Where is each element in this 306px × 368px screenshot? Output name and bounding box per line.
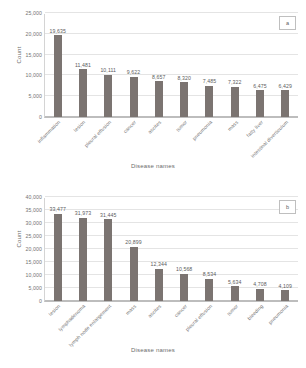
x-label-slot: tumor (222, 302, 247, 348)
bar[interactable] (79, 69, 87, 117)
bar-slot: 8,657 (146, 14, 171, 117)
x-axis-labels-b: lesionlymphadenomalymph node enlargement… (44, 302, 298, 348)
gridline: 40,000 (45, 196, 298, 197)
y-axis-tick-label: 0 (39, 114, 42, 120)
bar-slot: 31,445 (96, 198, 121, 301)
bar-slot: 20,899 (121, 198, 146, 301)
x-label-slot: bleeding (247, 302, 272, 348)
bar-slot: 5,634 (222, 198, 247, 301)
bar[interactable] (104, 75, 112, 117)
bar-value-label: 8,657 (152, 74, 165, 80)
x-axis-category-label: inflammation (36, 119, 61, 144)
bar[interactable] (155, 81, 163, 117)
bar-slot: 19,635 (45, 14, 70, 117)
bar[interactable] (256, 289, 264, 301)
x-label-slot: pneumonia (273, 302, 298, 348)
bar[interactable] (231, 286, 239, 301)
bar[interactable] (281, 90, 289, 117)
bar[interactable] (180, 82, 188, 117)
panel-label-b: b (279, 200, 296, 214)
bar-series-a: 19,63511,48110,1119,6228,6578,3207,4857,… (45, 14, 298, 117)
x-axis-category-label: fatty liver (245, 119, 264, 138)
bar[interactable] (205, 86, 213, 117)
bar-slot: 33,477 (45, 198, 70, 301)
x-axis-category-label: tumor (174, 119, 188, 133)
y-axis-tick-label: 25,000 (26, 233, 42, 239)
bar[interactable] (205, 279, 213, 301)
bar-slot: 7,322 (222, 14, 247, 117)
x-label-slot: pleural effusion (95, 118, 120, 164)
bar-value-label: 31,445 (100, 212, 116, 218)
x-axis-category-label: cancer (173, 303, 188, 318)
bar-value-label: 33,477 (49, 206, 65, 212)
bar[interactable] (231, 87, 239, 117)
bar[interactable] (130, 77, 138, 117)
y-axis-tick-label: 15,000 (26, 52, 42, 58)
x-axis-category-label: cancer (122, 119, 137, 134)
x-label-slot: mass (222, 118, 247, 164)
y-axis-tick-label: 20,000 (26, 31, 42, 37)
bar-value-label: 4,109 (279, 283, 292, 289)
bar-slot: 10,568 (171, 198, 196, 301)
bar-value-label: 5,634 (228, 279, 241, 285)
x-label-slot: inflammation (44, 118, 69, 164)
x-axis-category-label: ascites (147, 303, 163, 319)
y-axis-tick-label: 40,000 (26, 194, 42, 200)
bar-value-label: 7,485 (203, 78, 216, 84)
bar-value-label: 6,429 (279, 83, 292, 89)
bar[interactable] (104, 219, 112, 301)
bar-value-label: 31,973 (75, 210, 91, 216)
chart-panel-a: a Count 05,00010,00015,00020,00025,000 1… (0, 0, 306, 184)
x-label-slot: ascites (146, 118, 171, 164)
bar-value-label: 12,344 (151, 261, 167, 267)
bar[interactable] (54, 35, 62, 117)
bar-slot: 8,534 (197, 198, 222, 301)
bar-value-label: 6,475 (253, 83, 266, 89)
bar[interactable] (79, 218, 87, 301)
bar-value-label: 10,111 (100, 67, 116, 73)
bar[interactable] (180, 274, 188, 301)
x-axis-category-label: lesion (72, 119, 86, 133)
x-label-slot: cancer (120, 118, 145, 164)
bar[interactable] (130, 247, 138, 301)
bar[interactable] (256, 90, 264, 117)
y-axis-title-a: Count (16, 35, 22, 75)
x-axis-category-label: bleeding (246, 303, 264, 321)
bar-series-b: 33,47731,97331,44520,89912,34410,5688,53… (45, 198, 298, 301)
x-label-slot: tumor (171, 118, 196, 164)
bar[interactable] (155, 269, 163, 301)
y-axis-tick-label: 30,000 (26, 220, 42, 226)
plot-area-b: 05,00010,00015,00020,00025,00030,00035,0… (44, 198, 298, 302)
x-axis-category-label: ascites (147, 119, 163, 135)
x-label-slot: pleural effusion (196, 302, 221, 348)
bar-value-label: 11,481 (75, 62, 91, 68)
x-axis-title-b: Disease names (0, 347, 306, 353)
bar-slot: 9,622 (121, 14, 146, 117)
x-axis-category-label: mass (124, 303, 137, 316)
x-label-slot: ascites (146, 302, 171, 348)
y-axis-tick-label: 20,000 (26, 246, 42, 252)
bar-value-label: 7,322 (228, 79, 241, 85)
plot-area-a: 05,00010,00015,00020,00025,000 19,63511,… (44, 14, 298, 118)
x-axis-title-a: Disease names (0, 163, 306, 169)
bar-slot: 10,111 (96, 14, 121, 117)
x-axis-category-label: tumor (225, 303, 239, 317)
x-label-slot: lymph node enlargement (95, 302, 120, 348)
y-axis-tick-label: 35,000 (26, 207, 42, 213)
bar-value-label: 4,708 (253, 281, 266, 287)
bar-slot: 7,485 (197, 14, 222, 117)
y-axis-tick-label: 15,000 (26, 259, 42, 265)
bar-value-label: 9,622 (127, 69, 140, 75)
bar[interactable] (281, 290, 289, 301)
panel-label-a: a (279, 16, 296, 30)
bar-value-label: 10,568 (176, 266, 192, 272)
y-axis-tick-label: 25,000 (26, 10, 42, 16)
x-label-slot: pneumonia (196, 118, 221, 164)
bar[interactable] (54, 214, 62, 301)
y-axis-tick-label: 10,000 (26, 72, 42, 78)
bar-slot: 4,708 (247, 198, 272, 301)
gridline: 25,000 (45, 12, 298, 13)
bar-slot: 8,320 (171, 14, 196, 117)
bar-value-label: 8,320 (177, 75, 190, 81)
x-axis-category-label: mass (226, 119, 239, 132)
